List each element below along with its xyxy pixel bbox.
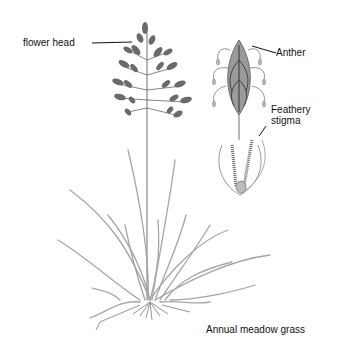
flower-head-label: flower head bbox=[23, 37, 75, 48]
grass-roots bbox=[96, 302, 190, 330]
flower-head-leader-line bbox=[92, 42, 132, 43]
plant-name-label: Annual meadow grass bbox=[206, 324, 305, 335]
anther-label: Anther bbox=[276, 47, 305, 58]
feathery-stigma-label-line2: stigma bbox=[271, 115, 300, 126]
botanical-diagram: flower head Anther Feathery stigma Annua… bbox=[0, 0, 349, 361]
anther-spikelet-detail bbox=[213, 40, 266, 140]
flower-head bbox=[111, 22, 192, 300]
feathery-stigma-detail bbox=[219, 140, 265, 195]
grass-leaves bbox=[58, 150, 270, 318]
feathery-stigma-label-line1: Feathery bbox=[271, 104, 310, 115]
stigma-leader-line bbox=[259, 126, 266, 136]
